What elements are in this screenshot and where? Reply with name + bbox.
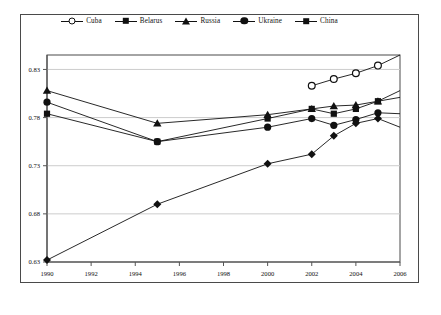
plot-border — [47, 55, 400, 262]
x-tick-label: 2004 — [349, 270, 363, 277]
plot-area: 0.630.680.730.780.8319901992199419961998… — [0, 0, 441, 315]
y-tick-label: 0.83 — [28, 66, 40, 73]
data-point-belarus — [331, 111, 337, 117]
data-point-china — [264, 160, 272, 168]
x-tick-label: 2002 — [305, 270, 318, 277]
data-point-belarus — [44, 111, 50, 117]
x-tick-label: 1996 — [173, 270, 187, 277]
y-tick-label: 0.63 — [28, 258, 40, 265]
data-point-cuba — [330, 76, 337, 83]
chart-svg: 0.630.680.730.780.8319901992199419961998… — [0, 0, 441, 315]
data-point-cuba — [308, 82, 315, 89]
series-line-ukraine — [47, 102, 400, 141]
x-tick-label: 2006 — [393, 270, 407, 277]
data-point-ukraine — [43, 99, 50, 106]
data-point-cuba — [352, 70, 359, 77]
data-point-china — [374, 115, 382, 123]
data-point-ukraine — [154, 138, 161, 145]
data-point-china — [43, 256, 51, 264]
series-line-china — [47, 119, 400, 261]
series-line-belarus — [47, 97, 400, 141]
x-tick-label: 1994 — [129, 270, 143, 277]
x-tick-label: 1998 — [217, 270, 231, 277]
data-point-russia — [43, 87, 51, 94]
data-point-ukraine — [330, 122, 337, 129]
x-tick-label: 2000 — [261, 270, 275, 277]
x-tick-label: 1990 — [40, 270, 54, 277]
series-line-russia — [47, 91, 400, 124]
y-tick-label: 0.78 — [28, 114, 40, 121]
y-tick-label: 0.68 — [28, 210, 40, 217]
data-point-cuba — [375, 62, 382, 69]
x-tick-label: 1992 — [85, 270, 98, 277]
data-point-ukraine — [308, 115, 315, 122]
data-point-china — [153, 200, 161, 208]
data-point-ukraine — [264, 124, 271, 131]
y-tick-label: 0.73 — [28, 162, 40, 169]
